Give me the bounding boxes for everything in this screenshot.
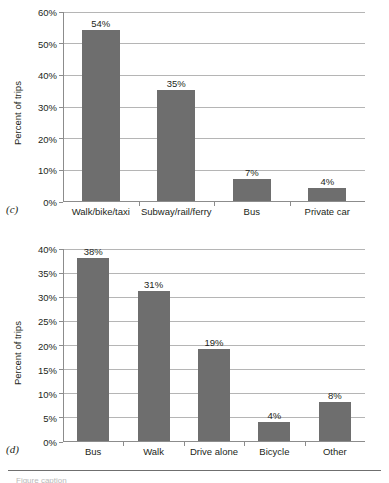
footer-clipped-caption: Figure caption [16,477,112,483]
plot-area-d: 0%5%10%15%20%25%30%35%40%38%31%19%4%8% [63,249,365,442]
y-axis-title-d: Percent of trips [12,321,23,385]
y-tick-label: 30% [38,102,57,113]
bar-value-label: 4% [320,176,334,187]
bar-value-label: 35% [167,78,186,89]
y-axis-line-d [63,249,64,442]
y-tick-label: 0% [43,197,57,208]
bar [308,188,346,201]
bar [77,258,109,441]
bar [198,349,230,441]
y-tick-label: 30% [38,292,57,303]
panel-letter-d: (d) [6,443,19,455]
y-axis-title-c: Percent of trips [12,81,23,145]
category-label: Bus [85,446,101,457]
bar [233,179,271,201]
category-label: Subway/rail/ferry [141,206,212,217]
y-tick-label: 20% [38,133,57,144]
y-tick-label: 5% [43,412,57,423]
bar [157,90,195,201]
category-label: Bus [244,206,260,217]
y-tick-label: 40% [38,70,57,81]
bar-value-label: 38% [84,246,103,257]
category-label: Drive alone [190,446,238,457]
category-label: Bicycle [259,446,289,457]
x-axis-line-d [63,441,365,442]
plot-area-c: 0%10%20%30%40%50%60%54%35%7%4% [63,12,365,202]
y-axis-line-c [63,12,64,202]
y-tick-label: 50% [38,38,57,49]
y-tick-label: 10% [38,388,57,399]
x-tick-mark [184,442,185,446]
bar-value-label: 4% [268,410,282,421]
x-tick-mark [305,442,306,446]
y-tick-label: 10% [38,165,57,176]
y-tick-label: 0% [43,437,57,448]
y-tick-label: 40% [38,244,57,255]
gridline [63,249,365,250]
figure-d: (d) Percent of trips 0%5%10%15%20%25%30%… [0,235,389,465]
x-tick-mark [244,442,245,446]
bar-value-label: 19% [204,337,223,348]
bar-value-label: 8% [328,390,342,401]
x-tick-mark [290,202,291,206]
footer-divider [8,470,381,471]
panel-letter-c: (c) [6,203,18,215]
x-tick-mark [123,442,124,446]
bar [319,402,351,441]
category-label: Other [323,446,347,457]
bar-value-label: 7% [245,167,259,178]
y-tick-label: 20% [38,340,57,351]
gridline [63,12,365,13]
y-tick-label: 15% [38,364,57,375]
x-tick-mark [214,202,215,206]
bar-value-label: 54% [91,18,110,29]
y-tick-label: 25% [38,316,57,327]
y-tick-label: 35% [38,268,57,279]
category-label: Walk/bike/taxi [72,206,130,217]
bar-value-label: 31% [144,279,163,290]
bar [82,30,120,201]
bar [138,291,170,441]
bar [258,422,290,441]
x-tick-mark [139,202,140,206]
x-axis-line-c [63,201,365,202]
y-tick-label: 60% [38,7,57,18]
category-label: Private car [305,206,350,217]
figure-c: (c) Percent of trips 0%10%20%30%40%50%60… [0,0,389,235]
category-label: Walk [143,446,164,457]
